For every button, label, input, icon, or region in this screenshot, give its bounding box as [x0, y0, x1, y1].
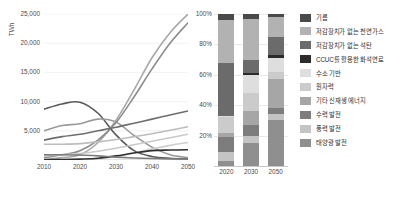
line-chart-y-tick: 20,000	[4, 39, 40, 46]
legend-item[interactable]: 기타 신재생 에너지	[300, 95, 400, 106]
legend-swatch-icon	[300, 69, 311, 77]
legend-swatch-icon	[300, 97, 311, 105]
bar-segment	[268, 17, 284, 37]
bar-chart-x-tick: 2020	[218, 168, 234, 175]
legend-item[interactable]: 저감장치가 없는 석탄	[300, 40, 400, 51]
bar-segment	[243, 19, 259, 60]
legend-swatch-icon	[300, 83, 311, 91]
bar-segment	[268, 37, 284, 55]
bar-segment	[243, 111, 259, 125]
legend-swatch-icon	[300, 41, 311, 49]
legend-swatch-icon	[300, 55, 311, 63]
legend-swatch-icon	[300, 125, 311, 133]
line-chart-y-ticks: 25,00020,00015,00010,0005,000	[0, 10, 40, 162]
line-chart-y-tick: 10,000	[4, 98, 40, 105]
bar-chart-x-ticks: 202020302050	[214, 168, 288, 175]
legend-item-label: 저감장치가 없는 천연가스	[316, 27, 384, 36]
bar-chart-y-tick: 60%	[190, 71, 212, 78]
legend-item[interactable]: 풍력 발전	[300, 123, 400, 134]
bar-chart-columns	[214, 14, 288, 166]
bar-segment	[218, 20, 234, 63]
legend-item[interactable]: 기름	[300, 12, 400, 23]
line-chart-x-tick: 2010	[29, 163, 59, 170]
chart-legend: 기름저감장치가 없는 천연가스저감장치가 없는 석탄CCUC를 활용한 화석연료…	[300, 12, 400, 151]
bar-segment	[218, 152, 234, 161]
line-series	[44, 134, 188, 156]
bar-chart-x-tick: 2030	[243, 168, 259, 175]
stacked-bar-chart: 100%80%60%40%20% 202020302050	[196, 0, 296, 199]
bar-segment	[218, 63, 234, 116]
legend-item[interactable]: 태양광 발전	[300, 137, 400, 148]
axis-baseline	[214, 166, 288, 167]
bar-segment	[243, 125, 259, 136]
legend-swatch-icon	[300, 27, 311, 35]
line-chart-x-tick: 2040	[137, 163, 167, 170]
line-chart-x-tick: 2020	[65, 163, 95, 170]
bar-chart-x-tick: 2050	[268, 168, 284, 175]
line-chart-y-tick: 15,000	[4, 68, 40, 75]
bar-column[interactable]	[268, 14, 284, 166]
line-chart-y-tick: 25,000	[4, 10, 40, 17]
legend-item[interactable]: 수력 발전	[300, 109, 400, 120]
legend-swatch-icon	[300, 139, 311, 147]
legend-item[interactable]: 원자력	[300, 81, 400, 92]
bar-segment	[218, 161, 234, 166]
bar-segment	[268, 72, 284, 80]
legend-item-label: 기름	[316, 13, 328, 22]
legend-item[interactable]: 저감장치가 없는 천연가스	[300, 26, 400, 37]
legend-item-label: 수소 기반	[316, 69, 341, 78]
bar-segment	[268, 58, 284, 72]
legend-item-label: 수력 발전	[316, 110, 341, 119]
line-chart-y-tick: 5,000	[4, 127, 40, 134]
bar-segment	[218, 137, 234, 152]
legend-item-label: 원자력	[316, 82, 334, 91]
bar-chart-plot-area	[214, 14, 288, 166]
legend-item[interactable]: 수소 기반	[300, 68, 400, 79]
bar-column[interactable]	[243, 14, 259, 166]
bar-chart-y-tick: 20%	[190, 132, 212, 139]
bar-chart-y-tick: 100%	[190, 10, 212, 17]
bar-segment	[243, 60, 259, 74]
line-chart-x-tick: 2030	[101, 163, 131, 170]
bar-segment	[243, 75, 259, 93]
bar-segment	[243, 136, 259, 144]
line-chart: TWh 25,00020,00015,00010,0005,000 201020…	[0, 0, 196, 199]
legend-item-label: 태양광 발전	[316, 138, 347, 147]
bar-segment	[243, 93, 259, 111]
line-series	[44, 14, 188, 159]
bar-segment	[243, 143, 259, 166]
bar-column[interactable]	[218, 14, 234, 166]
chart-figure: TWh 25,00020,00015,00010,0005,000 201020…	[0, 0, 400, 199]
legend-item-label: 저감장치가 없는 석탄	[316, 41, 372, 50]
legend-item-label: CCUC를 활용한 화석연료	[316, 55, 384, 64]
bar-segment	[218, 117, 234, 132]
bar-chart-y-tick: 80%	[190, 40, 212, 47]
bar-chart-y-tick: 40%	[190, 101, 212, 108]
bar-segment	[268, 79, 284, 108]
legend-item-label: 기타 신재생 에너지	[316, 96, 366, 105]
line-chart-series	[44, 14, 188, 160]
line-chart-plot-area	[44, 14, 188, 160]
legend-item[interactable]: CCUC를 활용한 화석연료	[300, 54, 400, 65]
legend-swatch-icon	[300, 14, 311, 22]
bar-segment	[268, 120, 284, 166]
line-chart-x-ticks: 20102020203020402050	[44, 163, 188, 175]
legend-item-label: 풍력 발전	[316, 124, 341, 133]
legend-swatch-icon	[300, 111, 311, 119]
